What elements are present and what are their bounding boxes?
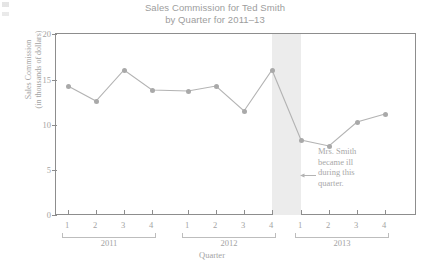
x-tick-label-2013-q1: 1 xyxy=(298,220,302,230)
data-point-2012-q1 xyxy=(186,89,191,94)
y-tick-label-5: 5 xyxy=(47,165,51,175)
data-point-2011-q4 xyxy=(150,88,155,93)
x-tick-label-2013-q4: 4 xyxy=(382,220,386,230)
y-axis-title-line-2: (in thousands of dollars) xyxy=(33,5,43,135)
year-label-2012: 2012 xyxy=(221,238,238,248)
annotation-line-3: during this xyxy=(318,167,388,178)
data-point-2011-q3 xyxy=(122,68,127,73)
data-point-2013-q3 xyxy=(355,120,360,125)
year-label-2011: 2011 xyxy=(101,238,118,248)
chart-title-line-1: Sales Commission for Ted Smith xyxy=(60,2,370,14)
x-axis-title: Quarter xyxy=(0,250,424,260)
data-point-2012-q2 xyxy=(214,84,219,89)
data-point-2012-q3 xyxy=(242,109,247,114)
y-tick-label-15: 15 xyxy=(43,75,52,85)
data-point-2013-q1 xyxy=(299,138,304,143)
chart-title-line-2: by Quarter for 2011–13 xyxy=(60,14,370,26)
data-point-2011-q1 xyxy=(66,84,71,89)
y-tick-label-20: 20 xyxy=(43,29,52,39)
y-axis-title-line-1: Sales Commission xyxy=(24,40,33,99)
x-tick-label-2011-q2: 2 xyxy=(93,220,97,230)
x-tick-label-2012-q4: 4 xyxy=(269,220,273,230)
annotation-line-1: Mrs. Smith xyxy=(318,146,388,157)
annotation-text: Mrs. Smith became ill during this quarte… xyxy=(318,146,388,188)
data-point-2013-q4 xyxy=(383,112,388,117)
x-tick-label-2012-q3: 3 xyxy=(241,220,245,230)
x-tick-label-2011-q4: 4 xyxy=(149,220,153,230)
x-tick-label-2011-q3: 3 xyxy=(121,220,125,230)
data-point-2012-q4 xyxy=(270,68,275,73)
x-tick-label-2012-q2: 2 xyxy=(213,220,217,230)
y-axis-title: Sales Commission (in thousands of dollar… xyxy=(24,5,43,135)
annotation-line-2: became ill xyxy=(318,157,388,168)
year-label-2013: 2013 xyxy=(334,238,351,248)
chart-figure: Sales Commission for Ted Smith by Quarte… xyxy=(0,0,424,264)
x-tick-label-2013-q2: 2 xyxy=(326,220,330,230)
chart-title: Sales Commission for Ted Smith by Quarte… xyxy=(60,2,370,26)
y-tick-label-0: 0 xyxy=(47,210,51,220)
x-tick-label-2012-q1: 1 xyxy=(185,220,189,230)
x-tick-label-2011-q1: 1 xyxy=(65,220,69,230)
data-line-series xyxy=(56,34,417,216)
y-tick-label-10: 10 xyxy=(43,120,52,130)
page-edge-artifact xyxy=(2,2,9,28)
annotation-arrow-icon xyxy=(300,172,316,179)
annotation-line-4: quarter. xyxy=(318,178,388,189)
x-tick-label-2013-q3: 3 xyxy=(354,220,358,230)
data-point-2011-q2 xyxy=(94,99,99,104)
